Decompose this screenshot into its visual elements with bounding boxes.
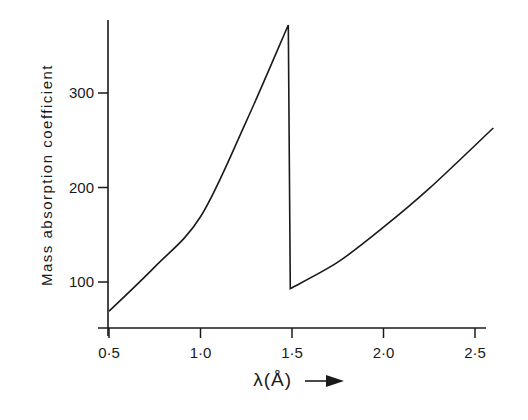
axes [98, 20, 486, 336]
y-axis-title: Mass absorption coefficient [38, 64, 55, 286]
x-tick-label: 0·5 [98, 344, 120, 361]
y-ticks: 100200300 [69, 84, 108, 290]
absorption-curve [109, 25, 493, 311]
x-ticks: 0·51·01·52·02·5 [98, 328, 486, 361]
right-arrow-icon [305, 375, 344, 387]
x-axis-title: λ(Å) [253, 369, 292, 390]
x-axis-title-group: λ(Å) [253, 369, 344, 390]
x-tick-label: 1·5 [281, 344, 303, 361]
mass-absorption-chart: 100200300 0·51·01·52·02·5 Mass absorptio… [0, 0, 528, 420]
x-tick-label: 2·5 [464, 344, 486, 361]
y-tick-label: 100 [69, 273, 94, 290]
x-tick-label: 1·0 [190, 344, 212, 361]
y-tick-label: 300 [69, 84, 94, 101]
y-tick-label: 200 [69, 179, 94, 196]
x-tick-label: 2·0 [373, 344, 395, 361]
